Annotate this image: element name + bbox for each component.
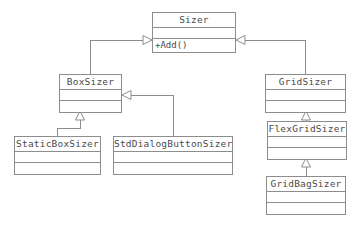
uml-attributes-sizer bbox=[153, 28, 235, 39]
uml-class-staticboxsizer[interactable]: StaticBoxSizer bbox=[14, 136, 101, 175]
uml-class-gridsizer[interactable]: GridSizer bbox=[265, 74, 346, 113]
generalization-arrowhead bbox=[122, 91, 131, 100]
uml-operations-gridsizer bbox=[266, 101, 345, 112]
uml-attributes-gridbagsizer bbox=[267, 192, 345, 203]
uml-class-name-flexgridsizer: FlexGridSizer bbox=[268, 122, 346, 137]
edge-boxsizer-to-sizer bbox=[90, 36, 152, 75]
uml-class-name-sizer: Sizer bbox=[153, 13, 235, 28]
uml-class-name-boxsizer: BoxSizer bbox=[60, 75, 121, 90]
uml-attributes-staticboxsizer bbox=[15, 152, 100, 163]
uml-operations-staticboxsizer bbox=[15, 163, 100, 174]
edge-gridbagsizer-to-flexgridsizer bbox=[302, 158, 311, 176]
uml-attributes-flexgridsizer bbox=[268, 137, 346, 148]
uml-class-gridbagsizer[interactable]: GridBagSizer bbox=[266, 176, 346, 215]
uml-class-sizer[interactable]: Sizer +Add() bbox=[152, 12, 236, 53]
uml-class-flexgridsizer[interactable]: FlexGridSizer bbox=[267, 121, 347, 160]
uml-attributes-stddialogbuttonsizer bbox=[114, 152, 232, 163]
generalization-arrowhead bbox=[236, 36, 245, 45]
uml-attributes-boxsizer bbox=[60, 90, 121, 101]
uml-class-name-gridsizer: GridSizer bbox=[266, 75, 345, 90]
uml-operations-sizer: +Add() bbox=[153, 39, 235, 52]
uml-class-boxsizer[interactable]: BoxSizer bbox=[59, 74, 122, 113]
uml-attributes-gridsizer bbox=[266, 90, 345, 101]
uml-class-diagram: Sizer +Add() BoxSizer GridSizer StaticBo… bbox=[0, 0, 361, 236]
uml-class-name-gridbagsizer: GridBagSizer bbox=[267, 177, 345, 192]
uml-operations-boxsizer bbox=[60, 101, 121, 112]
edge-gridsizer-to-sizer bbox=[236, 36, 305, 75]
uml-operations-gridbagsizer bbox=[267, 203, 345, 214]
uml-class-stddialogbuttonsizer[interactable]: StdDialogButtonSizer bbox=[113, 136, 233, 175]
uml-operations-stddialogbuttonsizer bbox=[114, 163, 232, 174]
edge-staticboxsizer-to-boxsizer bbox=[57, 111, 85, 136]
uml-class-name-stddialogbuttonsizer: StdDialogButtonSizer bbox=[114, 137, 232, 152]
uml-operations-flexgridsizer bbox=[268, 148, 346, 159]
uml-class-name-staticboxsizer: StaticBoxSizer bbox=[15, 137, 100, 152]
generalization-arrowhead bbox=[143, 36, 152, 45]
edge-stddialogbuttonsizer-to-boxsizer bbox=[122, 91, 173, 137]
